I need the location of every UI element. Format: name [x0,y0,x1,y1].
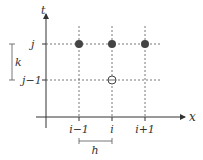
grid-lines [46,26,160,117]
row-label-j: j [28,38,35,51]
col-label-i-plus-1: i+1 [135,123,155,136]
t-axis-label: t [41,4,46,17]
col-label-i-minus-1: i−1 [69,123,89,136]
h-label: h [91,144,98,157]
node-open [108,76,116,84]
col-label-i: i [110,123,114,136]
node-filled [108,40,116,48]
finite-difference-stencil-diagram: t x j j−1 k i−1 i i+1 h [0,0,203,160]
node-filled [75,40,83,48]
k-label: k [15,56,22,69]
x-axis-label: x [189,110,196,124]
node-filled [141,40,149,48]
row-label-j-minus-1: j−1 [19,74,42,87]
